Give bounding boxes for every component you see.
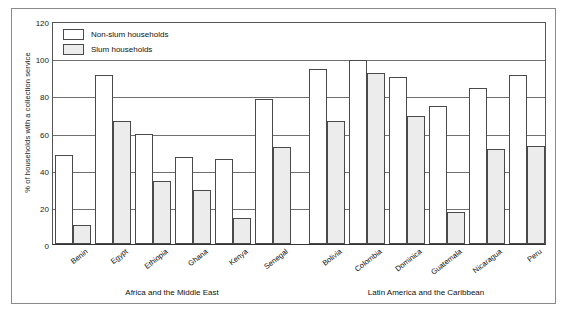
bar [233, 218, 251, 244]
category-tick-label: Colombia [353, 247, 384, 274]
bar [327, 121, 345, 244]
legend-item: Non-slum households [63, 29, 168, 40]
y-axis-tick-label: 20 [40, 204, 49, 213]
category-tick-label: Dominica [393, 247, 423, 273]
legend-label-nonslum: Non-slum households [91, 30, 168, 39]
bar [389, 77, 407, 244]
legend: Non-slum households Slum households [63, 29, 168, 59]
legend-swatch-slum-icon [63, 44, 84, 55]
legend-item: Slum households [63, 44, 168, 55]
bar [367, 73, 385, 244]
bar [309, 69, 327, 244]
category-tick-label: Nicaragua [471, 247, 503, 275]
legend-swatch-nonslum-icon [63, 29, 84, 40]
y-axis-tick-label: 120 [36, 19, 49, 28]
plot-area: 020406080100120 Non-slum households Slum… [52, 22, 546, 245]
category-tick-label: Egypt [109, 247, 130, 266]
category-tick-label: Ethiopia [143, 247, 170, 271]
category-tick-label: Guatemala [429, 247, 463, 277]
bar [215, 159, 233, 244]
bar [135, 134, 153, 244]
bar [527, 146, 545, 244]
y-axis-tick-label: 40 [40, 167, 49, 176]
category-tick-label: Bolivia [321, 247, 344, 268]
bar [95, 75, 113, 244]
bar [447, 212, 465, 244]
y-axis-label: % of households with a collection servic… [23, 33, 32, 213]
y-axis-tick-label: 100 [36, 56, 49, 65]
bar [487, 149, 505, 244]
bar [73, 225, 91, 244]
category-tick-label: Kenya [227, 247, 249, 267]
bar [255, 99, 273, 244]
bar [429, 106, 447, 244]
bar [469, 88, 487, 244]
group-label: Africa and the Middle East [125, 288, 218, 297]
y-axis-tick-label: 0 [45, 242, 49, 251]
group-label: Latin America and the Caribbean [368, 288, 485, 297]
y-axis-tick-label: 60 [40, 130, 49, 139]
bar [113, 121, 131, 244]
bar [175, 157, 193, 244]
chart-figure: % of households with a collection servic… [0, 0, 568, 317]
bar [407, 116, 425, 244]
bar [193, 190, 211, 244]
bar [349, 60, 367, 244]
bar [509, 75, 527, 244]
category-tick-label: Benin [69, 247, 90, 266]
category-tick-label: Ghana [186, 247, 209, 268]
bar [153, 181, 171, 244]
bar [55, 155, 73, 244]
legend-label-slum: Slum households [91, 45, 152, 54]
category-tick-label: Peru [526, 247, 544, 264]
y-axis-tick-label: 80 [40, 93, 49, 102]
category-labels: BeninEgyptEthiopiaGhanaKenyaSenegalBoliv… [52, 247, 546, 292]
category-tick-label: Senegal [262, 247, 289, 271]
bar [273, 147, 291, 244]
